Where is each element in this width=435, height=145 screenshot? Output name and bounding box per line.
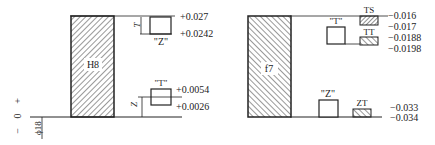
svg-text:−0.0198: −0.0198 bbox=[388, 43, 421, 54]
svg-text:"T": "T" bbox=[155, 78, 168, 88]
t-gauge-box bbox=[327, 27, 345, 44]
svg-text:+0.0026: +0.0026 bbox=[176, 101, 209, 112]
z-gauge-box bbox=[150, 17, 171, 34]
zt-zone bbox=[353, 109, 371, 117]
svg-text:−: − bbox=[12, 128, 23, 134]
svg-text:−0.017: −0.017 bbox=[388, 21, 416, 32]
svg-text:+0.0054: +0.0054 bbox=[176, 84, 209, 95]
svg-text:−0.016: −0.016 bbox=[388, 10, 416, 21]
svg-text:ϕ18: ϕ18 bbox=[33, 121, 43, 135]
left-diagram: H8 T "Z" +0.027 +0.0242 Z "T" +0.0054 +0… bbox=[12, 11, 213, 139]
svg-text:TT: TT bbox=[364, 27, 375, 37]
tt-zone bbox=[360, 37, 378, 45]
ts-zone bbox=[360, 16, 378, 25]
svg-text:+0.027: +0.027 bbox=[180, 11, 208, 22]
svg-text:+0.0242: +0.0242 bbox=[180, 28, 213, 39]
z-gauge-box bbox=[319, 100, 338, 117]
svg-text:"Z": "Z" bbox=[154, 36, 168, 47]
svg-text:0: 0 bbox=[12, 114, 23, 119]
svg-text:"T": "T" bbox=[330, 16, 343, 26]
svg-text:"Z": "Z" bbox=[321, 88, 335, 99]
svg-text:+: + bbox=[12, 98, 23, 104]
svg-text:Z: Z bbox=[129, 101, 139, 107]
tolerance-diagram: H8 T "Z" +0.027 +0.0242 Z "T" +0.0054 +0… bbox=[0, 0, 435, 145]
svg-text:TS: TS bbox=[364, 5, 375, 15]
svg-text:ZT: ZT bbox=[357, 98, 368, 108]
svg-text:−0.0188: −0.0188 bbox=[388, 32, 421, 43]
svg-text:T: T bbox=[132, 22, 142, 28]
svg-text:−0.034: −0.034 bbox=[390, 112, 418, 123]
h8-label: H8 bbox=[87, 59, 99, 70]
svg-text:f7: f7 bbox=[265, 63, 273, 74]
right-diagram: f7 "T" TS TT −0.016 −0.017 −0.0188 −0.01… bbox=[248, 5, 421, 123]
